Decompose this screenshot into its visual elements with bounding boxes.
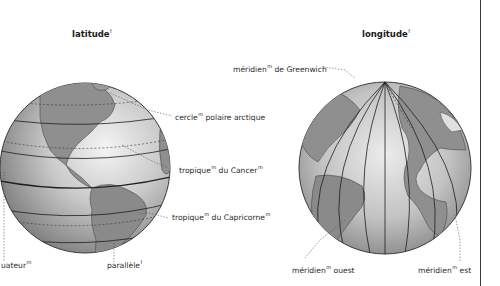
panel-divider [480,0,481,286]
globes-illustration [0,0,500,286]
label-tropic-cancer: tropiquem du Cancerm [179,164,263,175]
latitude-title: latitudef [72,28,112,39]
label-arctic-circle: cerclem polaire arctique [175,111,265,122]
label-parallel: parallèlef [107,259,142,270]
label-tropic-capricorn: tropiquem du Capricornem [172,211,270,222]
latitude-globe [0,76,175,272]
longitude-globe [299,82,471,262]
label-west-meridian: méridienm ouest [292,264,355,275]
label-greenwich-meridian: méridienm de Greenwich [233,63,327,74]
label-east-meridian: méridienm est [418,264,471,275]
label-equator: uateurm [1,259,31,270]
longitude-title: longitudef [362,28,410,39]
